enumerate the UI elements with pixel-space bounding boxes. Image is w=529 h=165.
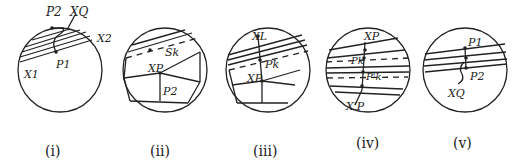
label-xp-bot-iv: X'P <box>345 100 365 113</box>
label-xp-iii: XP <box>246 72 263 85</box>
label-pk-iii: Pk <box>264 58 279 71</box>
label-p1-i: P1 <box>55 58 70 71</box>
circle-v <box>423 28 507 112</box>
label-xq-v: XQ <box>447 87 465 100</box>
caption-iv: (iv) <box>356 135 379 151</box>
caption-v: (v) <box>453 135 472 151</box>
label-p2-i: P2 <box>45 5 62 19</box>
label-x1-i: X1 <box>23 68 39 81</box>
caption-i: (i) <box>45 143 60 159</box>
panel-v <box>423 28 507 112</box>
label-pk2-iv: P'k <box>365 71 382 82</box>
label-sk-ii: Sk <box>165 46 180 59</box>
label-x2-i: X2 <box>96 32 112 45</box>
label-xp-ii: XP <box>147 62 164 75</box>
label-p2-ii: P2 <box>162 85 177 98</box>
label-p2-v: P2 <box>469 70 484 83</box>
label-xp-top-iv: XP <box>363 30 380 43</box>
label-pk-iv: Pk <box>350 55 364 66</box>
panel-ii <box>123 28 207 112</box>
label-p1-v: P1 <box>467 36 482 49</box>
label-xq-i: XQ <box>69 5 89 19</box>
label-xl-iii: XL <box>251 30 267 43</box>
diagram-canvas: P2 XQ X2 X1 P1 Sk XP P2 XL Pk XP XP Pk P… <box>0 0 529 165</box>
caption-iii: (iii) <box>253 143 277 159</box>
caption-ii: (ii) <box>150 143 170 159</box>
